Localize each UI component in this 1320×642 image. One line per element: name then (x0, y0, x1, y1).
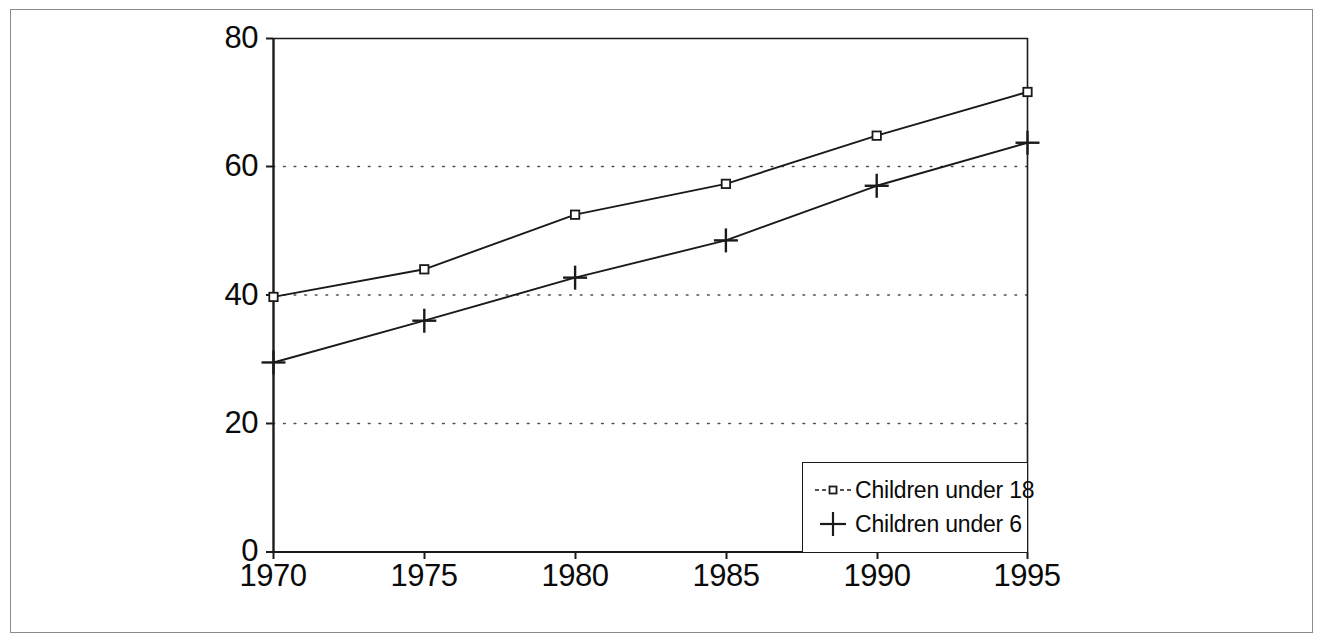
chart-figure: 80 60 40 20 0 1970 1975 1980 1985 1990 1… (0, 0, 1320, 642)
x-axis-label-1970: 1970 (208, 560, 338, 591)
plus-marker-icon (813, 511, 855, 537)
data-series-layer (262, 88, 1040, 375)
x-axis-label-1990: 1990 (812, 560, 942, 591)
x-axis-label-1980: 1980 (510, 560, 640, 591)
series-line-1 (274, 92, 1028, 297)
x-axis-label-1985: 1985 (661, 560, 791, 591)
data-point-marker (1023, 88, 1031, 96)
legend-label-children-under-18: Children under 18 (855, 479, 1034, 502)
legend-label-children-under-6: Children under 6 (855, 513, 1022, 536)
x-axis-label-1995: 1995 (962, 560, 1092, 591)
data-point-marker (722, 180, 730, 188)
x-axis-label-1975: 1975 (359, 560, 489, 591)
y-axis-label-20: 20 (168, 407, 258, 438)
legend-item-children-under-18: Children under 18 (813, 475, 1034, 505)
legend-item-children-under-6: Children under 6 (813, 509, 1022, 539)
y-axis-label-80: 80 (168, 22, 258, 53)
data-point-marker (420, 265, 428, 273)
data-point-marker (269, 293, 277, 301)
open-square-line-marker-icon (813, 477, 855, 503)
y-axis-label-60: 60 (168, 150, 258, 181)
data-point-marker (571, 210, 579, 218)
y-axis-label-40: 40 (168, 279, 258, 310)
series-line-2 (274, 143, 1028, 363)
chart-legend: Children under 18 Children under 6 (802, 462, 1028, 553)
plot-area: 80 60 40 20 0 1970 1975 1980 1985 1990 1… (0, 0, 1320, 642)
gridlines (273, 167, 1028, 424)
series-1 (269, 88, 1031, 301)
data-point-marker (873, 131, 881, 139)
series-2 (262, 131, 1040, 375)
